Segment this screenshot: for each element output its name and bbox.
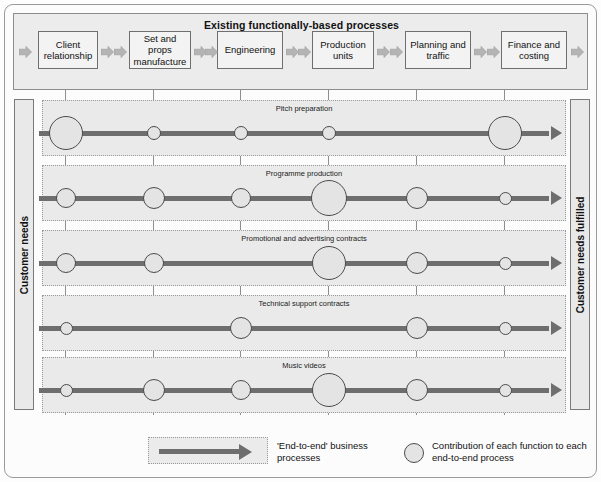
process-row-pitch-preparation[interactable]: Pitch preparation [42, 100, 566, 156]
process-row-label: Promotional and advertising contracts [43, 234, 565, 243]
flow-arrow-icon [298, 44, 311, 56]
flow-arrow-icon [474, 44, 487, 56]
end-to-end-arrow-shaft [39, 326, 549, 331]
contribution-node-planning-and-traffic[interactable] [406, 252, 428, 274]
contribution-node-finance-and-costing[interactable] [499, 257, 512, 270]
legend-arrow-head [239, 444, 252, 460]
function-box-finance-and-costing[interactable]: Finance and costing [501, 31, 567, 69]
legend-arrow-swatch [148, 437, 268, 464]
contribution-node-set-and-props-manufacture[interactable] [143, 379, 165, 401]
flow-arrow-icon [114, 44, 127, 56]
process-row-programme-production[interactable]: Programme production [42, 165, 566, 221]
flow-arrow-icon [390, 44, 403, 56]
contribution-node-set-and-props-manufacture[interactable] [144, 253, 164, 273]
flow-arrow-icon [19, 44, 32, 56]
function-box-planning-and-traffic[interactable]: Planning and traffic [405, 31, 471, 69]
contribution-node-finance-and-costing[interactable] [499, 192, 512, 205]
contribution-node-production-units[interactable] [312, 246, 346, 280]
end-to-end-arrow-shaft [39, 131, 549, 136]
contribution-node-finance-and-costing[interactable] [499, 322, 512, 335]
contribution-node-finance-and-costing[interactable] [499, 384, 512, 397]
function-box-engineering[interactable]: Engineering [217, 31, 283, 69]
process-row-music-videos[interactable]: Music videos [42, 357, 566, 413]
contribution-node-planning-and-traffic[interactable] [406, 379, 428, 401]
flow-arrow-icon [377, 44, 390, 56]
end-to-end-arrow-head [551, 126, 562, 140]
contribution-node-client-relationship[interactable] [49, 116, 83, 150]
legend-arrow-label: 'End-to-end' business processes [277, 440, 387, 464]
contribution-node-set-and-props-manufacture[interactable] [147, 126, 161, 140]
process-row-promotional-and-advertising-contracts[interactable]: Promotional and advertising contracts [42, 230, 566, 286]
process-row-label: Music videos [43, 361, 565, 370]
contribution-node-production-units[interactable] [322, 126, 336, 140]
flow-arrow-icon [571, 44, 584, 56]
contribution-node-engineering[interactable] [234, 126, 248, 140]
function-box-label: Planning and traffic [408, 39, 468, 62]
customer-needs-fulfilled-label: Customer needs fulfilled [575, 196, 586, 313]
contribution-node-production-units[interactable] [311, 180, 347, 216]
end-to-end-process-diagram: Existing functionally-based processes Cl… [0, 0, 601, 482]
end-to-end-arrow-shaft [39, 261, 549, 266]
function-box-client-relationship[interactable]: Client relationship [38, 31, 98, 69]
contribution-node-client-relationship[interactable] [56, 188, 76, 208]
function-box-label: Finance and costing [504, 39, 564, 62]
function-box-set-and-props-manufacture[interactable]: Set and props manufacture [129, 31, 191, 69]
contribution-node-production-units[interactable] [312, 373, 346, 407]
function-box-label: Engineering [225, 44, 276, 56]
customer-needs-label: Customer needs [19, 215, 30, 293]
contribution-node-client-relationship[interactable] [60, 322, 73, 335]
customer-needs-bar: Customer needs [14, 99, 34, 410]
contribution-node-set-and-props-manufacture[interactable] [143, 187, 165, 209]
contribution-node-client-relationship[interactable] [56, 253, 76, 273]
legend-arrow-shaft [159, 449, 241, 454]
contribution-node-engineering[interactable] [231, 380, 251, 400]
end-to-end-arrow-head [551, 383, 562, 397]
end-to-end-arrow-shaft [39, 388, 549, 393]
end-to-end-arrow-head [551, 256, 562, 270]
contribution-node-client-relationship[interactable] [60, 384, 73, 397]
function-box-production-units[interactable]: Production units [312, 31, 374, 69]
function-box-label: Client relationship [41, 39, 95, 62]
flow-arrow-icon [205, 44, 218, 56]
process-row-label: Technical support contracts [43, 299, 565, 308]
function-box-label: Production units [315, 39, 371, 62]
end-to-end-arrow-head [551, 191, 562, 205]
legend-circle-label: Contribution of each function to each en… [432, 440, 592, 464]
flow-arrow-icon [101, 44, 114, 56]
end-to-end-arrow-head [551, 321, 562, 335]
process-row-label: Programme production [43, 169, 565, 178]
contribution-node-planning-and-traffic[interactable] [406, 317, 428, 339]
process-row-label: Pitch preparation [43, 104, 565, 113]
contribution-node-finance-and-costing[interactable] [488, 116, 522, 150]
flow-arrow-icon [487, 44, 500, 56]
existing-processes-title: Existing functionally-based processes [14, 19, 589, 31]
end-to-end-arrow-shaft [39, 196, 549, 201]
process-row-technical-support-contracts[interactable]: Technical support contracts [42, 295, 566, 351]
function-box-label: Set and props manufacture [132, 33, 188, 68]
legend-contribution-circle [404, 443, 424, 463]
contribution-node-planning-and-traffic[interactable] [406, 187, 428, 209]
customer-needs-fulfilled-bar: Customer needs fulfilled [570, 99, 590, 410]
contribution-node-engineering[interactable] [231, 188, 251, 208]
contribution-node-engineering[interactable] [230, 317, 252, 339]
